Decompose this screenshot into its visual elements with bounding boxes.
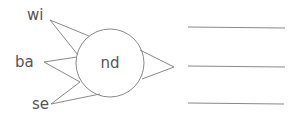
word-building-diagram: nd wi ba se bbox=[0, 0, 300, 119]
output-arrow bbox=[140, 50, 174, 79]
left-label-ba: ba bbox=[15, 53, 34, 71]
left-label-se: se bbox=[32, 95, 49, 113]
diagram-canvas: nd wi ba se bbox=[0, 0, 300, 119]
center-label: nd bbox=[100, 54, 119, 72]
connector-se bbox=[51, 82, 100, 104]
connector-ba bbox=[44, 57, 80, 82]
answer-line-3[interactable] bbox=[188, 103, 284, 104]
left-label-wi: wi bbox=[27, 6, 43, 24]
connector-wi bbox=[50, 20, 89, 55]
answer-line-2[interactable] bbox=[188, 66, 285, 67]
answer-line-1[interactable] bbox=[188, 27, 285, 28]
